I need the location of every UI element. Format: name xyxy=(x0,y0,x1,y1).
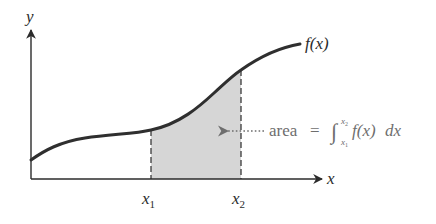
integral-diagram: y x f(x) x1 x2 area = ∫ x2 x1 f(x) dx xyxy=(0,0,436,224)
differential: dx xyxy=(385,121,402,140)
lower-bound-subscript: 1 xyxy=(150,198,156,210)
lower-bound-label: x1 xyxy=(141,189,155,210)
upper-limit-subscript: 2 xyxy=(345,121,348,127)
integral-lower-limit: x1 xyxy=(340,137,348,148)
lower-limit-subscript: 1 xyxy=(345,142,348,148)
upper-bound-subscript: 2 xyxy=(240,198,246,210)
equals-sign: = xyxy=(310,121,320,140)
area-formula: area = ∫ x2 x1 f(x) dx xyxy=(269,116,402,148)
integrand: f(x) xyxy=(352,121,376,140)
shaded-area-region xyxy=(151,70,241,179)
curve-label: f(x) xyxy=(305,34,329,53)
area-word: area xyxy=(269,121,298,140)
integral-sign: ∫ xyxy=(329,119,339,145)
upper-bound-label: x2 xyxy=(231,189,245,210)
integral-upper-limit: x2 xyxy=(340,116,348,127)
y-axis-label: y xyxy=(24,7,34,26)
x-axis-label: x xyxy=(326,169,335,188)
